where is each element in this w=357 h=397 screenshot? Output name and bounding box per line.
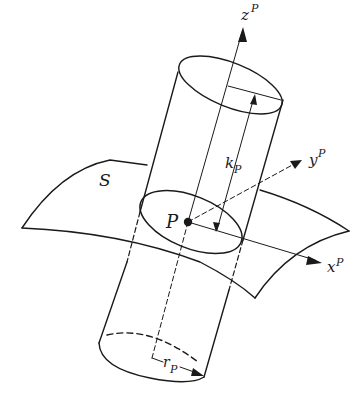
- y-arrowhead-icon: [290, 160, 302, 169]
- z-arrowhead-icon: [238, 27, 247, 42]
- label-y-axis: y: [308, 151, 318, 169]
- label-z-sup: P: [250, 2, 259, 15]
- k-top-arrowhead-icon: [250, 94, 257, 105]
- label-p: P: [165, 211, 179, 232]
- label-r-sub: P: [169, 363, 178, 376]
- z-axis: [152, 32, 242, 358]
- point-p-dot: [184, 218, 192, 226]
- r-arrowhead-icon: [191, 368, 204, 376]
- y-axis: [188, 163, 296, 222]
- label-z-axis: z: [240, 6, 249, 24]
- label-y-sup: P: [317, 147, 326, 160]
- label-k: k: [225, 154, 234, 172]
- x-arrowhead-icon: [306, 256, 322, 265]
- x-axis: [188, 222, 315, 260]
- label-x-sup: P: [335, 256, 344, 269]
- k-bottom-arrowhead-icon: [213, 222, 220, 232]
- label-k-sub: P: [233, 163, 242, 176]
- surface-s: [22, 160, 349, 298]
- label-x-axis: x: [327, 258, 336, 276]
- cylinder-surface-diagram: S P z P y P x P k P r P: [0, 0, 357, 397]
- label-s: S: [99, 170, 111, 190]
